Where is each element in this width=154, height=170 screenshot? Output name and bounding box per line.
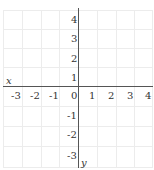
x-tick-label: 0 (71, 91, 77, 101)
y-tick-label: 1 (71, 73, 77, 83)
x-tick-label: 4 (145, 91, 151, 101)
grid-line (134, 10, 135, 168)
grid-line (22, 10, 23, 168)
y-tick-label: 3 (71, 34, 77, 44)
x-tick-label: 2 (108, 91, 114, 101)
y-tick-label: 4 (71, 15, 77, 25)
x-tick-label: 1 (89, 91, 95, 101)
y-tick-label: 2 (71, 54, 77, 64)
x-axis-label: x (6, 76, 12, 86)
x-axis (3, 86, 153, 87)
y-axis (78, 8, 79, 168)
y-tick-label: -2 (67, 130, 77, 140)
x-tick-label: 3 (127, 91, 133, 101)
grid-line (41, 10, 42, 168)
y-tick-label: -3 (67, 151, 77, 161)
grid-line (152, 10, 153, 168)
x-tick-label: -2 (30, 91, 40, 101)
x-tick-label: -1 (49, 91, 59, 101)
x-tick-label: -3 (11, 91, 21, 101)
y-tick-label: -1 (67, 111, 77, 121)
grid-line (97, 10, 98, 168)
grid-line (116, 10, 117, 168)
grid-line (3, 10, 4, 168)
y-axis-label: y (81, 158, 87, 168)
grid-line (59, 10, 60, 168)
